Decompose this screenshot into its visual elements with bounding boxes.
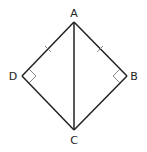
vertex-label-c: C — [70, 134, 78, 147]
vertex-label-b: B — [130, 70, 138, 83]
vertex-label-d: D — [9, 70, 17, 83]
segment-bc — [74, 76, 127, 130]
segment-dc — [22, 76, 74, 130]
right-angle-b — [113, 69, 120, 83]
vertex-label-a: A — [70, 7, 78, 20]
kite-diagram: A D B C — [0, 0, 147, 152]
right-angle-d — [29, 69, 36, 83]
